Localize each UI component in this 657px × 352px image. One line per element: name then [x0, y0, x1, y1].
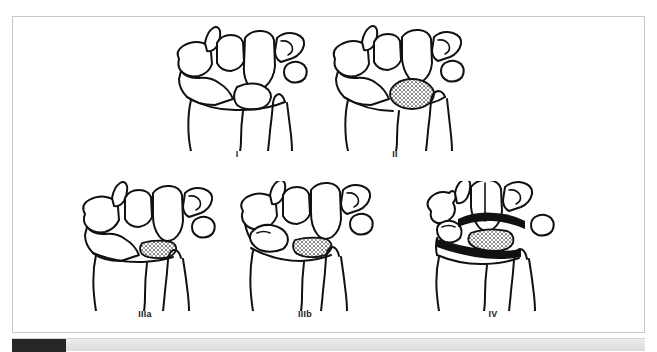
wrist-drawing-stage-4 — [413, 181, 573, 311]
panel-stage-3a: IIIa — [69, 181, 221, 311]
wrist-drawing-stage-2 — [319, 21, 471, 151]
horizontal-scrollbar-thumb[interactable] — [12, 339, 66, 352]
panel-stage-4: IV — [413, 181, 573, 311]
panel-label-stage-3b: IIIb — [229, 309, 381, 320]
horizontal-scrollbar-track[interactable] — [12, 338, 645, 351]
wrist-drawing-stage-1 — [161, 21, 313, 151]
panel-label-stage-1: I — [161, 149, 313, 160]
panel-stage-2: II — [319, 21, 471, 151]
wrist-drawing-stage-3b — [229, 181, 381, 311]
figure-frame: I — [12, 16, 645, 333]
wrist-drawing-stage-3a — [69, 181, 221, 311]
panel-stage-3b: IIIb — [229, 181, 381, 311]
panel-stage-1: I — [161, 21, 313, 151]
panel-label-stage-3a: IIIa — [69, 309, 221, 320]
panel-label-stage-4: IV — [413, 309, 573, 320]
panel-label-stage-2: II — [319, 149, 471, 160]
